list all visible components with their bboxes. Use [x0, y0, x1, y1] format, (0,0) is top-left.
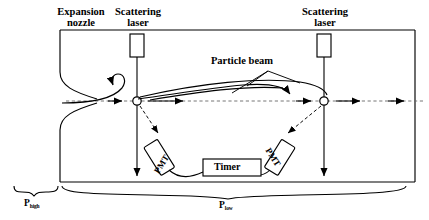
p-low-label: Plow [219, 201, 241, 211]
scattering-laser-left-label-line1: Scattering [115, 6, 161, 17]
p-high-symbol: P [24, 198, 30, 208]
expansion-nozzle [60, 30, 97, 182]
particle-beam-label: Particle beam [195, 55, 289, 66]
scattering-laser-right-label: Scattering laser [287, 6, 363, 28]
expansion-nozzle-label-line2: nozzle [67, 17, 95, 28]
pmt-right-signal-path [288, 106, 321, 133]
figure-root: Expansion nozzle Scattering laser Scatte… [0, 0, 429, 220]
pmt-left-signal-path [140, 106, 158, 133]
expansion-nozzle-label-line1: Expansion [57, 6, 104, 17]
diagram-canvas [0, 0, 429, 220]
p-low-subscript: low [225, 205, 233, 211]
p-high-label: Phigh [24, 199, 46, 209]
scattering-laser-right-label-line2: laser [314, 17, 336, 28]
p-low-symbol: P [219, 200, 225, 210]
timer-label: Timer [214, 161, 240, 172]
interaction-point-left [133, 97, 141, 105]
brace-p-low [62, 186, 406, 199]
brace-p-high [14, 186, 58, 196]
interaction-point-right [320, 97, 328, 105]
scattering-laser-left-label-line2: laser [127, 17, 149, 28]
particle-beam-leader-lines [232, 71, 300, 93]
p-high-subscript: high [30, 203, 40, 209]
scattering-laser-right-label-line1: Scattering [302, 6, 348, 17]
scattering-laser-left-label: Scattering laser [100, 6, 176, 28]
